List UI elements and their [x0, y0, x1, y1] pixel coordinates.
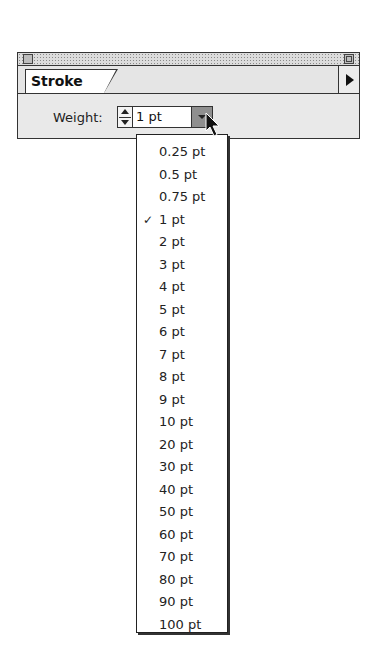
- tab-stroke-label: Stroke: [31, 73, 83, 89]
- checkmark-icon: ✓: [143, 209, 153, 231]
- menu-item[interactable]: 40 pt: [137, 479, 227, 501]
- palette-title-bar[interactable]: [18, 53, 359, 66]
- tab-slant-decoration: [104, 69, 124, 93]
- zoom-box-icon[interactable]: [344, 54, 354, 64]
- menu-item-label: 6 pt: [159, 324, 185, 339]
- menu-item-label: 60 pt: [159, 527, 193, 542]
- menu-item[interactable]: 6 pt: [137, 321, 227, 343]
- menu-item-label: 20 pt: [159, 437, 193, 452]
- menu-item[interactable]: 3 pt: [137, 254, 227, 276]
- stepper-divider: [119, 117, 131, 118]
- menu-item-label: 1 pt: [159, 212, 185, 227]
- palette-menu-button[interactable]: [338, 66, 359, 93]
- menu-item[interactable]: 10 pt: [137, 411, 227, 433]
- menu-item-label: 30 pt: [159, 459, 193, 474]
- menu-item[interactable]: 80 pt: [137, 569, 227, 591]
- menu-item[interactable]: 4 pt: [137, 276, 227, 298]
- menu-item-label: 7 pt: [159, 347, 185, 362]
- menu-item[interactable]: ✓1 pt: [137, 209, 227, 231]
- menu-item[interactable]: 7 pt: [137, 344, 227, 366]
- menu-item-label: 90 pt: [159, 594, 193, 609]
- menu-item-label: 80 pt: [159, 572, 193, 587]
- menu-item-label: 0.5 pt: [159, 167, 197, 182]
- menu-item-label: 2 pt: [159, 234, 185, 249]
- menu-item[interactable]: 0.75 pt: [137, 186, 227, 208]
- mouse-cursor-icon: [205, 112, 223, 138]
- menu-item-label: 8 pt: [159, 369, 185, 384]
- menu-item[interactable]: 30 pt: [137, 456, 227, 478]
- menu-item-label: 50 pt: [159, 504, 193, 519]
- stroke-palette: Stroke Weight: 1 pt: [17, 52, 360, 139]
- triangle-right-icon: [346, 74, 354, 86]
- menu-item[interactable]: 60 pt: [137, 524, 227, 546]
- menu-item[interactable]: 2 pt: [137, 231, 227, 253]
- weight-label: Weight:: [53, 110, 103, 125]
- menu-item[interactable]: 70 pt: [137, 546, 227, 568]
- menu-item-label: 40 pt: [159, 482, 193, 497]
- menu-item-label: 9 pt: [159, 392, 185, 407]
- menu-item[interactable]: 8 pt: [137, 366, 227, 388]
- menu-item[interactable]: 20 pt: [137, 434, 227, 456]
- menu-item-label: 0.75 pt: [159, 189, 205, 204]
- menu-item[interactable]: 9 pt: [137, 389, 227, 411]
- menu-item[interactable]: 50 pt: [137, 501, 227, 523]
- menu-item[interactable]: 0.25 pt: [137, 141, 227, 163]
- menu-item-label: 70 pt: [159, 549, 193, 564]
- palette-content: Weight: 1 pt: [18, 94, 359, 138]
- menu-item-label: 4 pt: [159, 279, 185, 294]
- menu-item[interactable]: 0.5 pt: [137, 164, 227, 186]
- menu-item-label: 3 pt: [159, 257, 185, 272]
- menu-item[interactable]: 100 pt: [137, 614, 227, 636]
- weight-input[interactable]: 1 pt: [132, 106, 192, 128]
- close-box-icon[interactable]: [23, 54, 33, 64]
- menu-item-label: 5 pt: [159, 302, 185, 317]
- menu-item[interactable]: 90 pt: [137, 591, 227, 613]
- menu-item-label: 100 pt: [159, 617, 201, 632]
- tab-stroke[interactable]: Stroke: [25, 69, 105, 93]
- stepper-down-icon[interactable]: [121, 120, 129, 125]
- menu-item[interactable]: 5 pt: [137, 299, 227, 321]
- menu-item-label: 0.25 pt: [159, 144, 205, 159]
- tab-row: Stroke: [18, 66, 359, 94]
- stepper-up-icon[interactable]: [121, 109, 129, 114]
- weight-stepper[interactable]: [117, 106, 133, 128]
- menu-item-label: 10 pt: [159, 414, 193, 429]
- weight-dropdown-menu: 0.25 pt0.5 pt0.75 pt✓1 pt2 pt3 pt4 pt5 p…: [136, 134, 228, 633]
